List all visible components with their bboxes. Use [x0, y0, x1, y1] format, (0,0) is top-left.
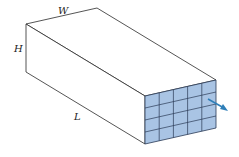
length-label: L — [73, 111, 81, 122]
height-label: H — [13, 43, 23, 54]
rectangular-duct-diagram: W H L — [0, 0, 239, 157]
width-label: W — [58, 5, 69, 16]
